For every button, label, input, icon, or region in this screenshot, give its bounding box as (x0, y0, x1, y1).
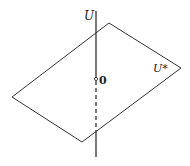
origin-point (94, 77, 97, 80)
label-origin: 0 (99, 74, 107, 87)
label-u-star: U* (153, 62, 168, 75)
label-u: U (84, 9, 95, 23)
diagram-canvas: U 0 U* (0, 0, 190, 166)
